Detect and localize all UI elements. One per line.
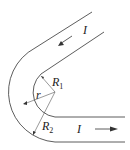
inner-boundary	[33, 32, 125, 117]
r2-arrowhead-icon	[33, 131, 36, 135]
bottom-arrowhead-icon	[110, 127, 118, 132]
r1-label: R1	[51, 75, 63, 91]
current-label-top: I	[82, 23, 88, 37]
bent-conductor-diagram: I I R1 R2 r	[0, 0, 130, 150]
outer-boundary	[9, 12, 125, 142]
current-label-bottom: I	[76, 122, 82, 136]
r2-label: R2	[41, 119, 53, 135]
r-label: r	[36, 88, 41, 102]
r-arrowhead-icon	[23, 101, 27, 105]
